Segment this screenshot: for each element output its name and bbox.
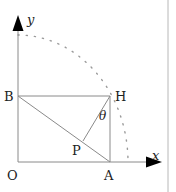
segment-BA	[18, 96, 110, 162]
y-axis-arrow-icon	[13, 15, 24, 31]
point-label-A: A	[103, 168, 114, 183]
point-label-O: O	[7, 168, 18, 183]
angle-theta-label: θ	[99, 109, 107, 123]
point-label-P: P	[72, 143, 81, 158]
geometry-diagram: y x B H O A P θ	[0, 0, 176, 192]
x-axis-label: x	[152, 148, 160, 163]
point-label-H: H	[115, 89, 126, 104]
y-axis-label: y	[26, 12, 35, 27]
point-label-B: B	[4, 89, 14, 104]
